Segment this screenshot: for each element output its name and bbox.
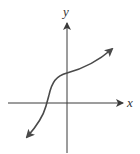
curve-upper	[49, 49, 112, 95]
curve-lower	[27, 95, 49, 137]
x-axis-label: x	[126, 95, 133, 110]
function-graph: y x	[0, 0, 140, 154]
y-axis-label: y	[61, 4, 69, 19]
